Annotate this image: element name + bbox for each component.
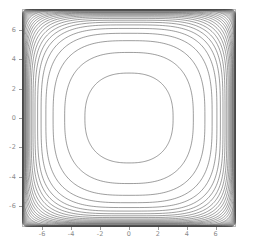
contour-ring [22,9,236,227]
y-axis-tick [19,118,22,119]
contour-ring [23,10,236,226]
x-axis-tick-label: 4 [185,231,189,238]
contour-ring [24,11,233,224]
contour-ring [46,33,212,202]
contour-ring [65,52,194,183]
contour-ring [22,9,235,226]
contour-ring [53,41,205,196]
contour-ring [23,10,235,226]
x-axis-tick-label: 2 [156,231,160,238]
contour-ring [23,10,236,227]
contour-ring [25,13,232,224]
contour-ring [25,12,233,224]
contour-ring [24,11,235,225]
contour-ring [23,10,234,225]
x-axis-tick-label: -2 [97,231,104,238]
contour-ring [23,10,235,226]
contour-ring [29,16,230,220]
x-axis-tick-label: 6 [214,231,218,238]
contour-ring [23,10,236,227]
contour-ring [22,9,235,226]
x-axis-tick-label: -4 [68,231,75,238]
contour-ring [23,10,234,225]
contour-ring [22,9,236,227]
contour-ring [22,9,236,227]
contour-ring [33,20,225,216]
y-axis-tick-label: 6 [12,26,16,33]
contour-ring [85,73,173,163]
contour-ring [23,10,235,225]
contour-ring [22,9,236,227]
contour-lines [22,9,236,227]
contour-ring [22,9,236,227]
contour-ring [31,18,227,217]
x-axis-tick-label: -6 [39,231,46,238]
contour-ring [23,10,235,226]
y-axis-tick [19,206,22,207]
y-axis-tick-label: -4 [9,173,16,180]
contour-ring [23,10,235,226]
y-axis-tick [19,177,22,178]
contour-ring [23,10,236,227]
contour-ring [23,10,235,226]
contour-ring [22,9,235,226]
contour-ring [38,25,221,211]
contour-ring [41,28,217,207]
plot-axes [22,9,236,227]
contour-ring [27,14,231,222]
y-axis-tick [19,59,22,60]
contour-ring [23,10,235,226]
contour-ring [22,9,236,227]
contour-ring [22,9,236,227]
y-axis-tick-label: 2 [12,85,16,92]
y-axis-tick-label: -6 [9,203,16,210]
y-axis-tick-label: 4 [12,56,16,63]
contour-ring [35,22,223,213]
contour-ring [30,17,228,219]
y-axis-tick [19,89,22,90]
y-axis-tick [19,30,22,31]
y-axis-tick-label: 0 [12,115,16,122]
contour-ring [22,9,236,227]
contour-ring [28,15,231,222]
contour-figure: -6-4-20246-6-4-20246 [0,0,254,250]
y-axis-tick [19,147,22,148]
contour-ring [22,9,235,226]
y-axis-tick-label: -2 [9,144,16,151]
x-axis-tick-label: 0 [127,231,131,238]
contour-ring [23,10,234,225]
